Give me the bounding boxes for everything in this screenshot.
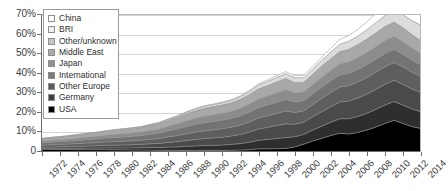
x-tick-mark — [277, 152, 278, 156]
x-tick-mark — [259, 152, 260, 156]
y-tick-label: 0 — [30, 146, 36, 156]
x-tick-label: 2006 — [354, 158, 376, 180]
legend-swatch-icon — [48, 72, 55, 79]
legend-item-label: China — [59, 14, 81, 23]
legend-item-label: Middle East — [59, 48, 103, 57]
legend-item-other-unknown[interactable]: Other/unknown — [48, 36, 114, 47]
y-tick-label: 20% — [16, 107, 36, 117]
legend-swatch-icon — [48, 94, 55, 101]
x-tick-mark — [367, 152, 368, 156]
y-tick-label: 70% — [16, 9, 36, 19]
x-tick-label: 2002 — [318, 158, 340, 180]
x-tick-label: 1992 — [228, 158, 250, 180]
legend-swatch-icon — [48, 49, 55, 56]
x-tick-mark — [150, 152, 151, 156]
y-tick-label: 60% — [16, 29, 36, 39]
x-tick-label: 1998 — [282, 158, 304, 180]
legend-item-germany[interactable]: Germany — [48, 92, 114, 103]
legend-item-label: USA — [59, 105, 76, 114]
x-tick-mark — [186, 152, 187, 156]
x-tick-mark — [349, 152, 350, 156]
y-tick-label: 50% — [16, 48, 36, 58]
x-tick-mark — [60, 152, 61, 156]
x-tick-mark — [403, 152, 404, 156]
x-tick-label: 1994 — [246, 158, 268, 180]
legend-item-other-europe[interactable]: Other Europe — [48, 81, 114, 92]
x-tick-mark — [241, 152, 242, 156]
chart-legend: ChinaBRIOther/unknownMiddle EastJapanInt… — [43, 9, 119, 119]
x-tick-mark — [295, 152, 296, 156]
legend-item-bri[interactable]: BRI — [48, 24, 114, 35]
x-tick-mark — [168, 152, 169, 156]
x-tick-mark — [222, 152, 223, 156]
x-tick-mark — [385, 152, 386, 156]
x-tick-label: 2004 — [336, 158, 358, 180]
x-tick-mark — [96, 152, 97, 156]
legend-swatch-icon — [48, 106, 55, 113]
legend-item-international[interactable]: International — [48, 69, 114, 80]
legend-item-japan[interactable]: Japan — [48, 58, 114, 69]
y-tick-label: 40% — [16, 68, 36, 78]
x-tick-mark — [114, 152, 115, 156]
legend-swatch-icon — [48, 83, 55, 90]
x-tick-mark — [42, 152, 43, 156]
legend-swatch-icon — [48, 26, 55, 33]
x-tick-label: 1996 — [264, 158, 286, 180]
legend-item-label: Japan — [59, 59, 82, 68]
x-tick-mark — [313, 152, 314, 156]
x-tick-mark — [331, 152, 332, 156]
x-axis: 1972197419761978198019821984198619881990… — [41, 152, 422, 191]
legend-item-label: Other Europe — [59, 82, 110, 91]
x-tick-mark — [204, 152, 205, 156]
y-tick-label: 10% — [16, 126, 36, 136]
y-tick-label: 30% — [16, 87, 36, 97]
legend-swatch-icon — [48, 38, 55, 45]
legend-item-label: BRI — [59, 25, 73, 34]
y-axis: 010%20%30%40%50%60%70% — [0, 0, 41, 160]
legend-item-middle-east[interactable]: Middle East — [48, 47, 114, 58]
legend-item-label: Other/unknown — [59, 37, 117, 46]
x-tick-mark — [421, 152, 422, 156]
x-tick-mark — [132, 152, 133, 156]
legend-swatch-icon — [48, 15, 55, 22]
legend-item-label: International — [59, 71, 106, 80]
x-tick-mark — [78, 152, 79, 156]
legend-swatch-icon — [48, 60, 55, 67]
legend-item-label: Germany — [59, 93, 94, 102]
x-tick-label: 2014 — [426, 158, 448, 180]
legend-item-usa[interactable]: USA — [48, 103, 114, 114]
x-tick-label: 2000 — [300, 158, 322, 180]
legend-item-china[interactable]: China — [48, 13, 114, 24]
